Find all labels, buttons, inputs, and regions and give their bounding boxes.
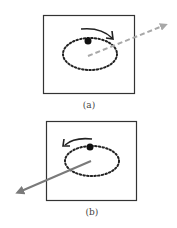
curved-arrow-counterclockwise-icon — [65, 139, 92, 145]
frame-b — [47, 122, 137, 201]
curved-arrow-clockwise-icon — [81, 29, 112, 38]
caption-a: (a) — [74, 100, 104, 110]
panel-a — [44, 16, 166, 94]
caption-b: (b) — [77, 207, 107, 217]
dashed-axis-arrow — [88, 25, 165, 56]
diagram — [0, 0, 177, 228]
solid-axis-arrow — [19, 161, 91, 192]
panel-b — [19, 122, 137, 201]
dotted-orbit-b — [65, 146, 119, 176]
point-a — [85, 38, 92, 45]
point-b — [87, 144, 94, 151]
frame-a — [44, 16, 135, 94]
